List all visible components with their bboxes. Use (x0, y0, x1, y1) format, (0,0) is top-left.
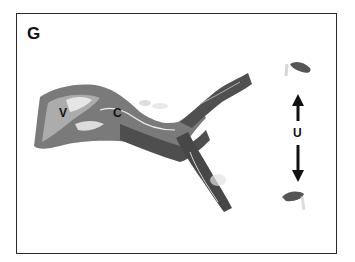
label-c: C (113, 106, 122, 120)
histology-specimen (0, 0, 355, 262)
label-v: V (59, 106, 67, 120)
down-arrow-icon (292, 145, 304, 182)
panel-label: G (27, 24, 40, 44)
label-u: U (293, 126, 302, 140)
up-arrow-icon (292, 94, 304, 121)
